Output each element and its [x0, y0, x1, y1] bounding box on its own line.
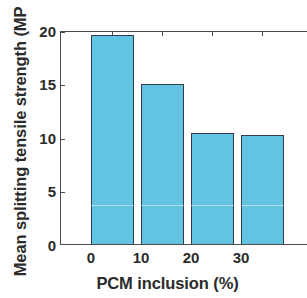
- bar-20: [191, 133, 234, 244]
- y-tick-mark-5: [61, 192, 65, 193]
- y-tick-mark-10: [61, 139, 65, 140]
- bar-10: [141, 84, 184, 245]
- x-tick-mark-top-30: [262, 32, 263, 36]
- x-axis-title: PCM inclusion (%): [40, 274, 295, 293]
- y-axis-title-container: Mean splitting tensile strength (MP: [0, 0, 30, 298]
- y-tick-label-15: 15: [30, 77, 56, 92]
- x-tick-label-30: 30: [221, 250, 261, 265]
- y-tick-mark-15: [61, 85, 65, 86]
- x-tick-mark-top-20: [212, 32, 213, 36]
- x-tick-label-20: 20: [171, 250, 211, 265]
- x-tick-label-10: 10: [121, 250, 161, 265]
- y-tick-label-5: 5: [30, 184, 56, 199]
- bar-0: [91, 35, 134, 244]
- y-axis-title: Mean splitting tensile strength (MP: [11, 2, 30, 282]
- x-tick-mark-top-10: [162, 32, 163, 36]
- y-tick-label-0: 0: [30, 238, 56, 253]
- plot-inner: [61, 32, 307, 244]
- y-tick-label-20: 20: [30, 24, 56, 39]
- y-axis-tick-labels: 20 15 10 5 0: [28, 0, 56, 298]
- y-tick-mark-20: [61, 32, 65, 33]
- y-tick-label-10: 10: [30, 131, 56, 146]
- bar-30: [241, 135, 284, 244]
- plot-area: [60, 31, 307, 245]
- chart-figure: Mean splitting tensile strength (MP 20 1…: [0, 0, 307, 298]
- x-tick-label-0: 0: [71, 250, 111, 265]
